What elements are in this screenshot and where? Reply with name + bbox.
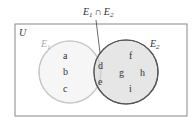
set-e1-label: E1 (40, 38, 51, 51)
element-d: d (98, 60, 103, 71)
universe-label: U (19, 27, 27, 38)
element-i: i (129, 83, 132, 94)
element-b: b (63, 66, 68, 77)
set-e2-label: E2 (149, 38, 160, 51)
element-h: h (140, 67, 145, 78)
intersection-pointer (96, 20, 100, 53)
element-c: c (63, 83, 68, 94)
venn-diagram: U E1∩E2 E1 E2 a b c d e f g h i (0, 0, 196, 126)
element-a: a (63, 50, 68, 61)
element-g: g (119, 67, 124, 78)
intersection-label: E1∩E2 (82, 6, 114, 19)
element-e: e (98, 76, 103, 87)
